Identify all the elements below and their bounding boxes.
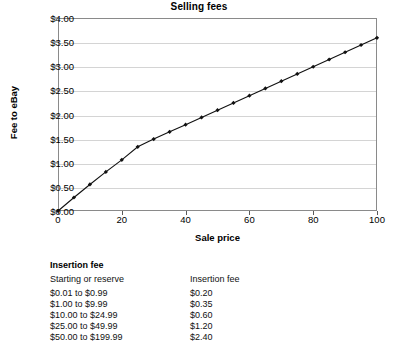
table-row: $10.00 to $24.99$0.60 [50, 309, 240, 320]
y-tick-mark [54, 138, 58, 139]
x-tick-mark [313, 211, 314, 215]
gridline-horizontal [59, 140, 376, 141]
fee-range-cell: $1.00 to $9.99 [50, 298, 166, 309]
y-tick-mark [54, 114, 58, 115]
table-row: $25.00 to $49.99$1.20 [50, 320, 240, 331]
column-header-range: Starting or reserve [50, 273, 166, 287]
gridline-horizontal [59, 91, 376, 92]
y-tick-label: $3.50 [22, 37, 74, 48]
x-tick-label: 60 [229, 214, 269, 225]
y-tick-label: $2.50 [22, 85, 74, 96]
insertion-fee-title: Insertion fee [50, 260, 280, 270]
y-tick-label: $0.50 [22, 181, 74, 192]
y-tick-label: $4.00 [22, 13, 74, 24]
y-tick-label: $1.00 [22, 157, 74, 168]
fee-amount-cell: $0.20 [166, 287, 240, 298]
y-tick-mark [54, 42, 58, 43]
y-tick-label: $1.50 [22, 133, 74, 144]
fee-range-cell: $0.01 to $0.99 [50, 287, 166, 298]
fee-table-body: $0.01 to $0.99$0.20$1.00 to $9.99$0.35$1… [50, 287, 240, 342]
fee-amount-cell: $0.35 [166, 298, 240, 309]
x-tick-mark [58, 211, 59, 215]
fee-range-cell: $50.00 to $199.99 [50, 331, 166, 342]
x-tick-label: 80 [293, 214, 333, 225]
x-tick-mark [122, 211, 123, 215]
fee-range-cell: $25.00 to $49.99 [50, 320, 166, 331]
y-tick-mark [54, 66, 58, 67]
y-tick-mark [54, 162, 58, 163]
gridline-horizontal [59, 67, 376, 68]
chart-title: Selling fees [0, 1, 398, 12]
y-axis-title: Fee to eBay [8, 43, 19, 183]
x-axis-title: Sale price [58, 232, 377, 243]
y-tick-label: $2.00 [22, 109, 74, 120]
selling-fees-chart: Selling fees Fee to eBay Sale price $0.0… [0, 0, 398, 250]
y-tick-mark [54, 186, 58, 187]
x-tick-label: 40 [166, 214, 206, 225]
x-tick-mark [249, 211, 250, 215]
insertion-fee-table: Insertion fee Starting or reserve Insert… [50, 260, 280, 342]
fee-amount-cell: $0.60 [166, 309, 240, 320]
x-tick-label: 0 [38, 214, 78, 225]
y-tick-mark [54, 90, 58, 91]
gridline-horizontal [59, 188, 376, 189]
table-row: $50.00 to $199.99$2.40 [50, 331, 240, 342]
table-row: $0.01 to $0.99$0.20 [50, 287, 240, 298]
column-header-fee: Insertion fee [166, 273, 240, 287]
fee-table-grid: Starting or reserve Insertion fee $0.01 … [50, 273, 240, 342]
x-tick-mark [377, 211, 378, 215]
gridline-horizontal [59, 164, 376, 165]
plot-area [58, 18, 377, 211]
table-row: $1.00 to $9.99$0.35 [50, 298, 240, 309]
x-tick-label: 20 [102, 214, 142, 225]
table-header-row: Starting or reserve Insertion fee [50, 273, 240, 287]
x-tick-mark [186, 211, 187, 215]
gridline-horizontal [59, 116, 376, 117]
fee-amount-cell: $2.40 [166, 331, 240, 342]
x-tick-label: 100 [357, 214, 397, 225]
y-tick-label: $3.00 [22, 61, 74, 72]
fee-amount-cell: $1.20 [166, 320, 240, 331]
fee-range-cell: $10.00 to $24.99 [50, 309, 166, 320]
gridline-horizontal [59, 43, 376, 44]
y-tick-mark [54, 18, 58, 19]
